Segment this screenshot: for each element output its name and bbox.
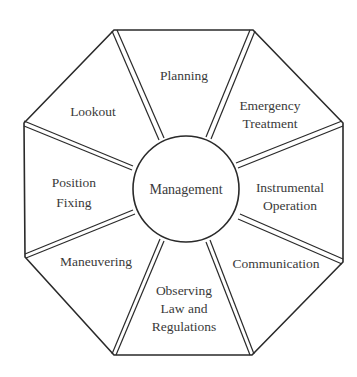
segment-observing-law-and-regulations: Observing Law and Regulations [152, 283, 217, 334]
management-octagon-diagram: Management Planning Emergency Treatment … [0, 0, 357, 377]
segment-lookout: Lookout [70, 104, 116, 119]
segment-label: Lookout [70, 104, 116, 119]
segment-label: Instrumental [256, 180, 324, 195]
segment-label: Maneuvering [60, 254, 132, 269]
segment-label: Fixing [56, 195, 92, 210]
segment-communication: Communication [233, 256, 320, 271]
center-label: Management [149, 182, 222, 197]
segment-label: Position [52, 175, 97, 190]
segment-label: Communication [233, 256, 320, 271]
segment-label: Emergency [239, 98, 300, 113]
segment-label: Planning [160, 68, 208, 83]
segment-label: Observing [156, 283, 212, 298]
segment-label: Law and [161, 301, 208, 316]
segment-label: Treatment [243, 116, 298, 131]
segment-planning: Planning [160, 68, 208, 83]
segment-label: Operation [263, 198, 317, 213]
segment-maneuvering: Maneuvering [60, 254, 132, 269]
segment-label: Regulations [152, 319, 217, 334]
